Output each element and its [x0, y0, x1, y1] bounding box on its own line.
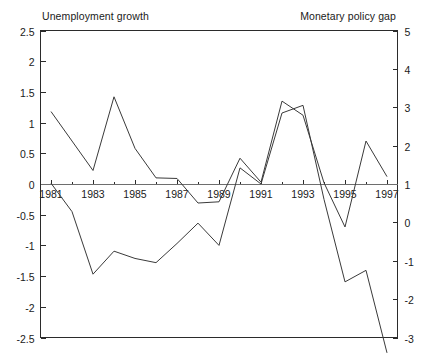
chart-figure: Unemployment growth Monetary policy gap …	[0, 0, 436, 360]
right-tick-label: 2	[405, 141, 411, 153]
x-tick-label: 1981	[39, 188, 63, 200]
x-tick-label: 1991	[249, 188, 273, 200]
right-tick-label: -2	[405, 294, 414, 306]
series-line	[51, 97, 387, 227]
left-tick-label: 1.5	[20, 87, 35, 99]
right-tick-label: 3	[405, 102, 411, 114]
left-tick-label: 1	[29, 118, 35, 130]
x-tick-label: 1997	[375, 188, 399, 200]
series-lines	[51, 97, 387, 353]
right-tick-label: 0	[405, 217, 411, 229]
right-axis-title: Monetary policy gap	[300, 10, 396, 22]
left-tick-label: 0	[29, 179, 35, 191]
x-tick-label: 1983	[81, 188, 105, 200]
left-tick-label: -0.5	[16, 210, 34, 222]
x-axis-ticks: 198119831985198719891991199319951997	[39, 180, 399, 200]
left-tick-label: 0.5	[20, 148, 35, 160]
line-chart-plot: 2.521.510.50-0.5-1-1.5-2-2.5 543210-1-2-…	[0, 0, 436, 360]
left-tick-label: -1	[25, 240, 34, 252]
right-tick-label: 5	[405, 26, 411, 38]
left-tick-label: 2	[29, 56, 35, 68]
left-tick-label: 2.5	[20, 26, 35, 38]
right-tick-label: -1	[405, 256, 414, 268]
x-tick-label: 1987	[165, 188, 189, 200]
x-tick-label: 1993	[291, 188, 315, 200]
left-tick-label: -1.5	[16, 271, 34, 283]
x-tick-label: 1989	[207, 188, 231, 200]
right-tick-label: 4	[405, 64, 411, 76]
x-tick-label: 1985	[123, 188, 147, 200]
left-axis-title: Unemployment growth	[42, 10, 149, 22]
left-tick-label: -2.5	[16, 333, 34, 345]
right-tick-label: -3	[405, 333, 414, 345]
right-tick-label: 1	[405, 179, 411, 191]
left-tick-label: -2	[25, 302, 34, 314]
